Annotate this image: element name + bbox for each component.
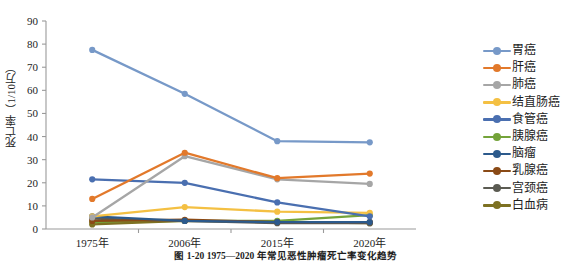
legend-item[interactable]: 胰腺癌 bbox=[483, 128, 571, 145]
legend-item[interactable]: 白血病 bbox=[483, 197, 571, 214]
legend-marker-icon bbox=[483, 79, 511, 91]
legend-item-label: 胰腺癌 bbox=[511, 130, 548, 143]
legend-item-label: 白血病 bbox=[511, 199, 548, 212]
y-axis-tick-label: 10 bbox=[12, 201, 38, 212]
legend-item-label: 食管癌 bbox=[511, 113, 548, 126]
legend-item[interactable]: 胃癌 bbox=[483, 42, 571, 59]
legend-marker-icon bbox=[483, 45, 511, 57]
legend-item-label: 宫颈癌 bbox=[511, 182, 548, 195]
series-point bbox=[182, 91, 188, 97]
legend-item[interactable]: 结直肠癌 bbox=[483, 94, 571, 111]
series-point bbox=[182, 150, 188, 156]
legend-marker-icon bbox=[483, 165, 511, 177]
series-0 bbox=[89, 47, 373, 146]
legend-item-label: 脑瘤 bbox=[511, 147, 536, 160]
series-line bbox=[92, 50, 370, 142]
series-1 bbox=[89, 150, 373, 202]
y-axis-tick-label: 80 bbox=[12, 39, 38, 50]
series-point bbox=[182, 180, 188, 186]
legend-item[interactable]: 宫颈癌 bbox=[483, 180, 571, 197]
series-point bbox=[367, 170, 373, 176]
chart-legend: 胃癌肝癌肺癌结直肠癌食管癌胰腺癌脑瘤乳腺癌宫颈癌白血病 bbox=[483, 42, 571, 214]
series-point bbox=[274, 175, 280, 181]
y-axis-tick-label: 0 bbox=[12, 224, 38, 235]
x-axis-tick-label: 1975年 bbox=[76, 238, 109, 249]
legend-item-label: 胃癌 bbox=[511, 44, 536, 57]
figure-caption: 图 1-20 1975—2020 年常见恶性肿瘤死亡率变化趋势 bbox=[0, 250, 571, 262]
series-line bbox=[92, 207, 370, 216]
y-axis-tick-label: 20 bbox=[12, 178, 38, 189]
legend-marker-icon bbox=[483, 182, 511, 194]
legend-item[interactable]: 食管癌 bbox=[483, 111, 571, 128]
series-line bbox=[92, 179, 370, 216]
series-point bbox=[89, 196, 95, 202]
series-point bbox=[89, 214, 95, 220]
y-axis-tick-label: 60 bbox=[12, 85, 38, 96]
legend-item-label: 肺癌 bbox=[511, 78, 536, 91]
chart-plot-area: 死亡率（1/10万） 01020304050607080901975年2006年… bbox=[0, 0, 460, 248]
series-point bbox=[182, 218, 188, 224]
series-point bbox=[182, 204, 188, 210]
series-point bbox=[89, 176, 95, 182]
y-axis-tick-label: 50 bbox=[12, 108, 38, 119]
y-axis-tick-label: 90 bbox=[12, 16, 38, 27]
x-axis-tick-label: 2006年 bbox=[168, 238, 201, 249]
series-point bbox=[274, 209, 280, 215]
legend-item-label: 肝癌 bbox=[511, 61, 536, 74]
legend-marker-icon bbox=[483, 62, 511, 74]
y-axis-tick-label: 30 bbox=[12, 155, 38, 166]
legend-item[interactable]: 脑瘤 bbox=[483, 145, 571, 162]
legend-item-label: 结直肠癌 bbox=[511, 96, 560, 109]
y-axis-tick-label: 70 bbox=[12, 62, 38, 73]
legend-item[interactable]: 乳腺癌 bbox=[483, 162, 571, 179]
series-point bbox=[89, 47, 95, 53]
series-point bbox=[367, 181, 373, 187]
legend-item-label: 乳腺癌 bbox=[511, 164, 548, 177]
y-axis-tick-label: 40 bbox=[12, 132, 38, 143]
series-point bbox=[367, 213, 373, 219]
legend-marker-icon bbox=[483, 199, 511, 211]
figure-container: 死亡率（1/10万） 01020304050607080901975年2006年… bbox=[0, 0, 571, 265]
legend-item[interactable]: 肺癌 bbox=[483, 76, 571, 93]
series-point bbox=[367, 139, 373, 145]
series-point bbox=[274, 219, 280, 225]
x-axis-tick-label: 2015年 bbox=[261, 238, 294, 249]
legend-marker-icon bbox=[483, 113, 511, 125]
legend-marker-icon bbox=[483, 131, 511, 143]
line-chart-svg bbox=[0, 0, 460, 248]
legend-item[interactable]: 肝癌 bbox=[483, 59, 571, 76]
legend-marker-icon bbox=[483, 96, 511, 108]
series-point bbox=[367, 219, 373, 225]
series-point bbox=[274, 138, 280, 144]
legend-marker-icon bbox=[483, 148, 511, 160]
series-point bbox=[274, 199, 280, 205]
x-axis-tick-label: 2020年 bbox=[353, 238, 386, 249]
